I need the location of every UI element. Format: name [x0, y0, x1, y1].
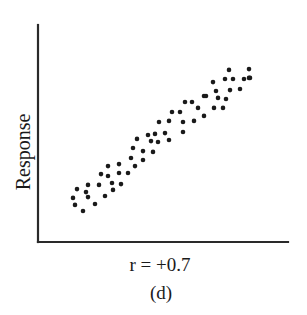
- data-point: [181, 130, 186, 135]
- data-point: [238, 87, 243, 92]
- data-point: [99, 172, 104, 177]
- data-point: [204, 94, 209, 99]
- data-points: [71, 67, 253, 214]
- data-point: [181, 120, 186, 125]
- data-point: [133, 164, 138, 169]
- data-point: [227, 68, 232, 73]
- data-point: [153, 132, 158, 137]
- data-point: [86, 183, 91, 188]
- data-point: [129, 156, 134, 161]
- data-point: [214, 89, 219, 94]
- data-point: [228, 88, 233, 93]
- data-point: [223, 77, 228, 82]
- data-point: [73, 203, 78, 208]
- data-point: [106, 164, 111, 169]
- data-point: [231, 77, 236, 82]
- data-point: [242, 77, 247, 82]
- data-point: [211, 80, 216, 85]
- data-point: [190, 100, 195, 105]
- data-point: [119, 182, 124, 187]
- data-point: [84, 190, 89, 195]
- data-point: [183, 100, 188, 105]
- data-point: [131, 146, 136, 151]
- data-point: [196, 106, 201, 111]
- data-point: [221, 106, 226, 111]
- data-point: [167, 119, 172, 124]
- data-point: [110, 181, 115, 186]
- data-point: [97, 183, 102, 188]
- data-point: [135, 137, 140, 142]
- data-point: [81, 209, 86, 214]
- y-axis-label: Response: [12, 114, 35, 191]
- data-point: [146, 133, 151, 138]
- data-point: [178, 110, 183, 115]
- data-point: [117, 171, 122, 176]
- data-point: [212, 106, 217, 111]
- data-point: [141, 149, 146, 154]
- data-point: [106, 174, 111, 179]
- data-point: [75, 187, 80, 192]
- data-point: [103, 194, 108, 199]
- data-point: [163, 131, 168, 136]
- data-point: [216, 96, 221, 101]
- data-point: [247, 67, 252, 72]
- data-point: [157, 120, 162, 125]
- data-point: [93, 202, 98, 207]
- panel-label: (d): [150, 282, 172, 304]
- data-point: [111, 188, 116, 193]
- data-point: [117, 162, 122, 167]
- data-point: [141, 158, 146, 163]
- data-point: [167, 138, 172, 143]
- data-point: [149, 139, 154, 144]
- data-point: [224, 97, 229, 102]
- data-point: [126, 171, 131, 176]
- data-point: [202, 114, 207, 119]
- correlation-annotation: r = +0.7: [129, 254, 190, 276]
- data-point: [192, 119, 197, 124]
- data-point: [156, 140, 161, 145]
- data-point: [86, 195, 91, 200]
- data-point: [170, 110, 175, 115]
- data-point: [71, 196, 76, 201]
- data-point: [151, 150, 156, 155]
- data-point: [248, 76, 253, 81]
